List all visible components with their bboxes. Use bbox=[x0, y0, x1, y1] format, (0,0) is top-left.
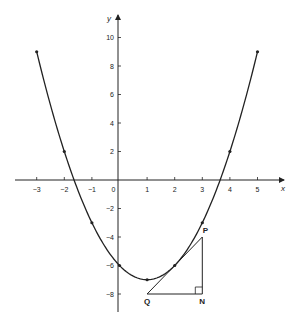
data-point bbox=[63, 150, 66, 153]
data-point bbox=[90, 221, 93, 224]
x-tick-label: −3 bbox=[33, 186, 41, 193]
x-tick-label: 2 bbox=[173, 186, 177, 193]
point-label-q: Q bbox=[144, 297, 150, 306]
data-point bbox=[35, 50, 38, 53]
data-point bbox=[201, 221, 204, 224]
x-tick-label: 1 bbox=[145, 186, 149, 193]
right-angle-marker bbox=[195, 287, 202, 294]
y-axis-label: y bbox=[106, 14, 112, 23]
y-tick-label: −8 bbox=[106, 291, 114, 298]
y-tick-label: 8 bbox=[110, 63, 114, 70]
x-ticks: −3−2−1012345 bbox=[33, 177, 260, 193]
data-point bbox=[118, 264, 121, 267]
x-tick-label: −2 bbox=[60, 186, 68, 193]
y-tick-label: 2 bbox=[110, 148, 114, 155]
data-point bbox=[228, 150, 231, 153]
y-tick-label: 10 bbox=[106, 34, 114, 41]
y-tick-label: −2 bbox=[106, 205, 114, 212]
tangent-line-qp bbox=[147, 237, 202, 294]
y-tick-label: 4 bbox=[110, 120, 114, 127]
y-tick-label: −6 bbox=[106, 262, 114, 269]
x-tick-label: 5 bbox=[256, 186, 260, 193]
data-point bbox=[256, 50, 259, 53]
data-point bbox=[146, 278, 149, 281]
x-tick-label: 0 bbox=[112, 186, 116, 193]
parabola-curve bbox=[37, 52, 258, 280]
point-label-n: N bbox=[199, 297, 205, 306]
x-tick-label: −1 bbox=[88, 186, 96, 193]
point-label-p: P bbox=[203, 226, 209, 235]
x-axis-label: x bbox=[280, 184, 286, 193]
x-tick-label: 4 bbox=[228, 186, 232, 193]
x-tick-label: 3 bbox=[200, 186, 204, 193]
parabola-chart: −3−2−1012345 108642−2−4−6−8 x y P Q N bbox=[0, 0, 299, 322]
y-tick-label: 6 bbox=[110, 91, 114, 98]
y-tick-label: −4 bbox=[106, 234, 114, 241]
